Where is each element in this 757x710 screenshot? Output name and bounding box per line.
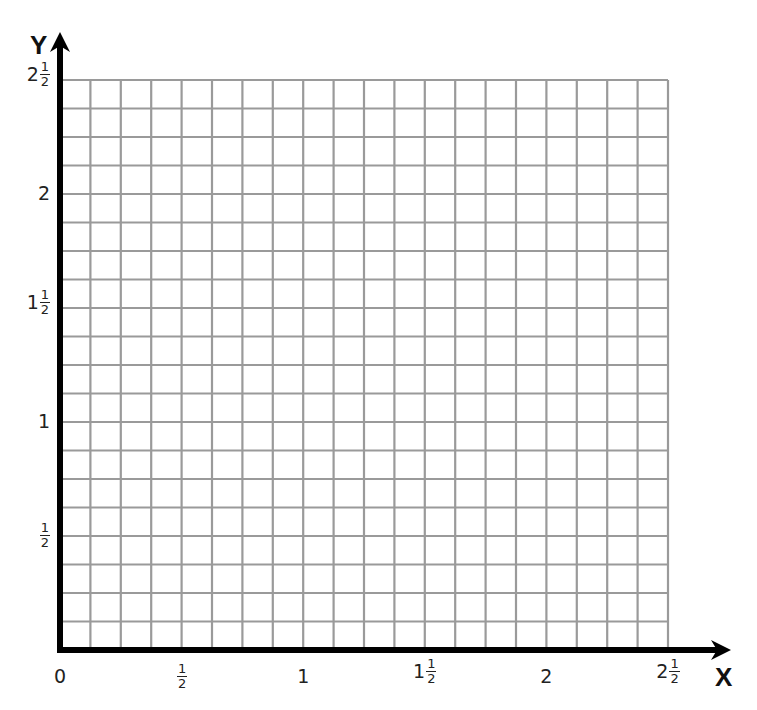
tick-fraction: 12 <box>40 288 50 316</box>
x-tick-label: 112 <box>405 657 445 685</box>
y-tick-label: 212 <box>27 60 50 88</box>
tick-fraction: 12 <box>669 657 679 685</box>
y-tick-label: 2 <box>38 184 50 203</box>
tick-fraction: 12 <box>426 657 436 685</box>
tick-whole: 2 <box>656 662 668 681</box>
grid-lines <box>60 80 668 650</box>
y-tick-label: 12 <box>39 516 50 549</box>
x-tick-label: 1 <box>283 667 323 686</box>
tick-fraction: 12 <box>40 60 50 88</box>
tick-whole: 2 <box>540 667 552 686</box>
tick-fraction: 12 <box>40 521 50 549</box>
tick-whole: 1 <box>297 667 309 686</box>
x-tick-label: 0 <box>40 667 80 686</box>
y-tick-label: 112 <box>27 288 50 316</box>
y-tick-label: 1 <box>38 412 50 431</box>
y-axis-label: Y <box>30 32 47 58</box>
tick-whole: 1 <box>27 293 39 312</box>
tick-whole: 0 <box>54 667 66 686</box>
tick-whole: 1 <box>38 412 50 431</box>
tick-whole: 1 <box>413 662 425 681</box>
plot-area <box>0 0 757 710</box>
tick-whole: 2 <box>38 184 50 203</box>
tick-fraction: 12 <box>177 662 187 690</box>
tick-whole: 2 <box>27 65 39 84</box>
x-tick-label: 212 <box>648 657 688 685</box>
coordinate-grid-chart: 01211122212 1211122212 X Y <box>0 0 757 710</box>
x-tick-label: 12 <box>162 657 202 690</box>
x-tick-label: 2 <box>526 667 566 686</box>
x-axis-label: X <box>715 664 732 690</box>
